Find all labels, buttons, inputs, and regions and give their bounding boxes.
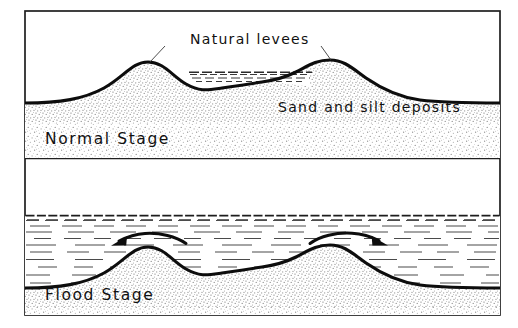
label-sand-and-silt-deposits: Sand and silt deposits (278, 99, 461, 115)
label-normal-stage: Normal Stage (45, 130, 170, 148)
levee-diagram-figure: Natural levees Sand and silt deposits No… (0, 0, 518, 328)
diagram-canvas: Natural levees Sand and silt deposits No… (0, 0, 518, 328)
label-natural-levees: Natural levees (190, 31, 310, 47)
label-flood-stage: Flood Stage (45, 286, 154, 304)
panel-flood-stage (25, 214, 500, 320)
